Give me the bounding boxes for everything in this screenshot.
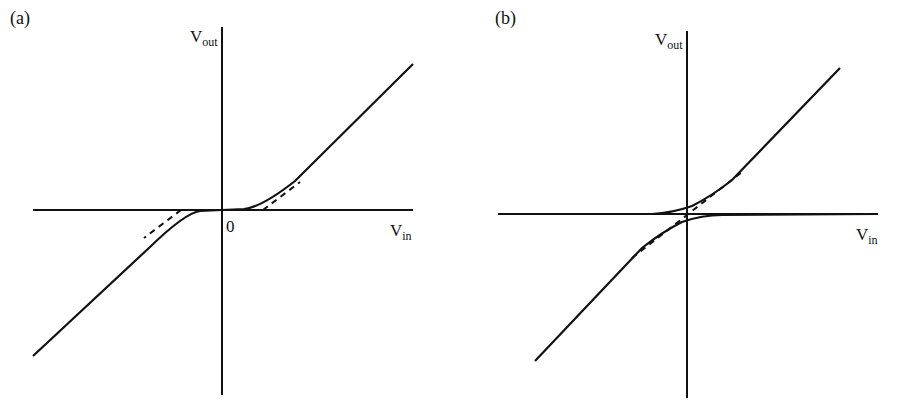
x-axis-label: Vin: [856, 226, 878, 243]
y-axis-label: Vout: [655, 31, 683, 48]
origin-label: 0: [226, 218, 235, 235]
panel-b-plot: [452, 0, 904, 410]
panel-b: (b) Vout Vin: [452, 0, 904, 410]
upper-branch: [498, 68, 840, 214]
lower-branch: [535, 214, 878, 361]
panel-a: (a) Vout 0 Vin: [0, 0, 452, 410]
panel-a-plot: [0, 0, 452, 410]
asymptote-right: [263, 182, 300, 210]
x-axis-label: Vin: [390, 222, 412, 239]
y-axis-label: Vout: [190, 28, 218, 45]
